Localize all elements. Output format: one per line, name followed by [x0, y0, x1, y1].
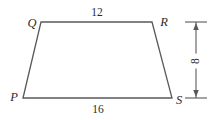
vertex-label-p: P [10, 91, 18, 104]
vertex-label-r: R [160, 16, 168, 29]
vertex-label-s: S [176, 94, 182, 107]
side-length-label-qr: 12 [91, 7, 103, 19]
geometry-figure: P Q R S 12 16 8 [0, 0, 217, 120]
vertex-label-q: Q [27, 17, 36, 30]
side-length-label-ps: 16 [92, 104, 104, 116]
height-dimension-label: 8 [190, 58, 202, 64]
trapezoid-outline [23, 22, 172, 98]
dimension-arrowhead-down-icon [193, 90, 199, 97]
dimension-arrowhead-up-icon [193, 23, 199, 30]
